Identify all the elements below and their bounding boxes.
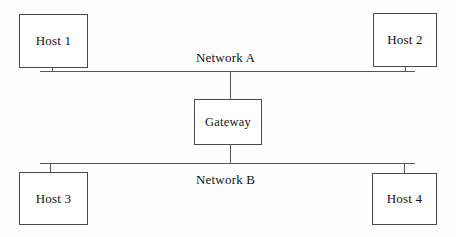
node-host3: Host 3 bbox=[19, 172, 88, 225]
network-a-bus-line bbox=[40, 71, 415, 72]
host1-connector-stub bbox=[52, 68, 53, 72]
gateway-to-network-a-stub bbox=[230, 71, 231, 100]
node-host1: Host 1 bbox=[19, 14, 88, 68]
node-gateway: Gateway bbox=[194, 99, 262, 145]
node-host2: Host 2 bbox=[373, 13, 437, 67]
node-host4: Host 4 bbox=[372, 173, 437, 225]
network-b-label: Network B bbox=[196, 172, 255, 188]
host2-connector-stub bbox=[405, 67, 406, 72]
network-diagram: Network A Network B Host 1 Host 2 Gatewa… bbox=[0, 0, 456, 237]
gateway-to-network-b-stub bbox=[230, 145, 231, 164]
network-b-bus-line bbox=[40, 163, 415, 164]
network-a-label: Network A bbox=[196, 50, 255, 66]
